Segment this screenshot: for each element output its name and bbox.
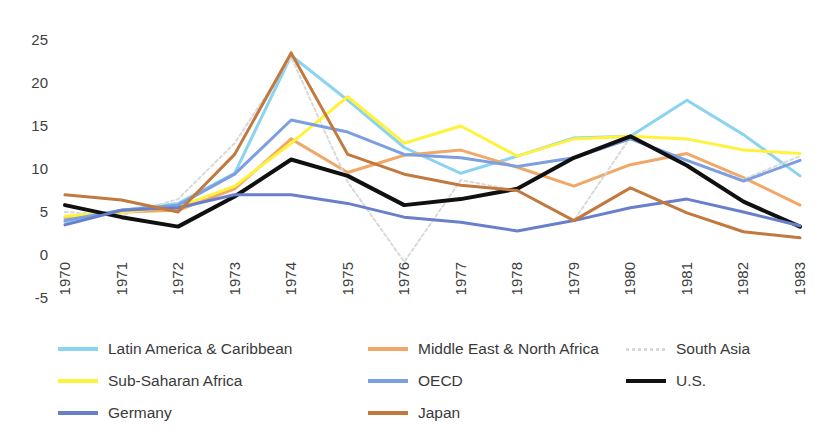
x-tick-label: 1971 — [114, 262, 129, 295]
x-tick-label: 1973 — [227, 262, 242, 295]
legend-swatch-icon — [368, 347, 408, 351]
y-tick-label: 0 — [14, 247, 48, 262]
legend-swatch-icon — [626, 379, 666, 383]
legend-label: Latin America & Caribbean — [108, 340, 292, 358]
x-tick-label: 1980 — [622, 262, 637, 295]
legend-row: Sub-Saharan AfricaOECDU.S. — [58, 366, 832, 396]
legend-label: Middle East & North Africa — [418, 340, 599, 358]
legend-row: Latin America & CaribbeanMiddle East & N… — [58, 334, 832, 364]
legend-label: South Asia — [676, 340, 750, 358]
legend-item[interactable]: Middle East & North Africa — [368, 334, 599, 364]
x-tick-label: 1979 — [566, 262, 581, 295]
x-tick-label: 1976 — [396, 262, 411, 295]
legend-swatch-icon — [626, 348, 666, 351]
y-tick-label: 5 — [14, 204, 48, 219]
legend-item[interactable]: OECD — [368, 366, 463, 396]
legend-label: Japan — [418, 404, 460, 422]
legend-item[interactable]: Germany — [58, 398, 172, 428]
y-tick-label: -5 — [14, 290, 48, 305]
x-tick-label: 1978 — [509, 262, 524, 295]
series-line — [65, 53, 800, 238]
y-tick-label: 20 — [14, 75, 48, 90]
legend-item[interactable]: South Asia — [626, 334, 750, 364]
x-tick-label: 1983 — [792, 262, 807, 295]
legend-row: GermanyJapan — [58, 398, 832, 428]
x-tick-label: 1970 — [57, 262, 72, 295]
x-tick-label: 1981 — [679, 262, 694, 295]
x-tick-label: 1977 — [453, 262, 468, 295]
legend-label: Germany — [108, 404, 172, 422]
inflation-line-chart: 2520151050-5 197019711972197319741975197… — [0, 0, 832, 444]
legend-swatch-icon — [58, 379, 98, 383]
legend-label: U.S. — [676, 372, 706, 390]
x-tick-label: 1982 — [735, 262, 750, 295]
legend-item[interactable]: Latin America & Caribbean — [58, 334, 292, 364]
y-tick-label: 10 — [14, 161, 48, 176]
legend-item[interactable]: U.S. — [626, 366, 706, 396]
legend-label: OECD — [418, 372, 463, 390]
y-tick-label: 15 — [14, 118, 48, 133]
legend-item[interactable]: Sub-Saharan Africa — [58, 366, 242, 396]
y-tick-label: 25 — [14, 32, 48, 47]
legend-item[interactable]: Japan — [368, 398, 460, 428]
x-tick-label: 1972 — [170, 262, 185, 295]
legend-swatch-icon — [368, 379, 408, 383]
chart-legend: Latin America & CaribbeanMiddle East & N… — [58, 334, 832, 442]
x-tick-label: 1974 — [283, 262, 298, 295]
legend-label: Sub-Saharan Africa — [108, 372, 242, 390]
legend-swatch-icon — [58, 347, 98, 351]
legend-swatch-icon — [58, 411, 98, 415]
x-tick-label: 1975 — [340, 262, 355, 295]
legend-swatch-icon — [368, 411, 408, 415]
